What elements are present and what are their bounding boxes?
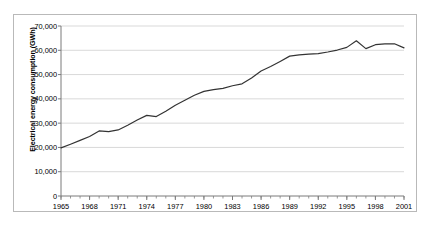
chart-plot xyxy=(14,15,418,213)
x-tick-label: 2001 xyxy=(384,202,424,211)
y-tick-label: 50,000 xyxy=(13,70,57,79)
chart-figure: Electrical energy consumption (GWh) 010,… xyxy=(0,0,430,226)
gridlines xyxy=(61,26,404,172)
y-tick-label: 10,000 xyxy=(13,167,57,176)
y-tick-label: 60,000 xyxy=(13,46,57,55)
y-tick-label: 30,000 xyxy=(13,119,57,128)
chart-frame: Electrical energy consumption (GWh) 010,… xyxy=(13,14,417,212)
y-tick-label: 40,000 xyxy=(13,94,57,103)
y-tick-label: 20,000 xyxy=(13,143,57,152)
y-tick-label: 70,000 xyxy=(13,22,57,31)
data-series-line xyxy=(61,41,404,148)
x-axis-major-ticks xyxy=(61,196,404,200)
y-tick-label: 0 xyxy=(13,192,57,201)
